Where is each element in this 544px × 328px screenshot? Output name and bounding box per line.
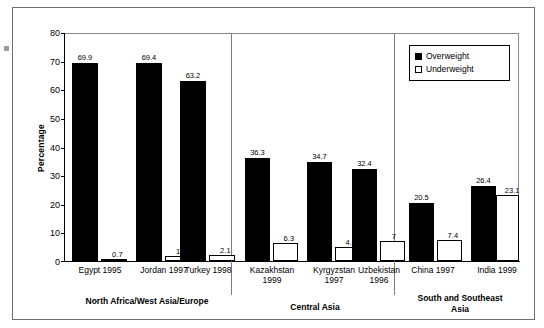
x-category-line: 1996 — [345, 275, 413, 285]
x-category-line: 1999 — [238, 275, 306, 285]
group-label-line: South and Southeast — [399, 293, 521, 304]
x-category-label-china-1997: China 1997 — [398, 265, 468, 275]
x-category-line: India 1999 — [462, 265, 532, 275]
bar-overweight-egypt-1995[interactable]: 69.9 — [72, 63, 98, 261]
bar-value-label: 20.5 — [414, 194, 429, 202]
chart-figure: Percentage 80 70 60 50 40 30 20 10 0 69.… — [0, 0, 544, 328]
chart-legend: Overweight Underweight — [409, 45, 510, 81]
bar-value-label: 2.1 — [220, 247, 230, 255]
bar-value-label: 69.4 — [142, 54, 157, 62]
bar-underweight-kazakhstan-1999[interactable]: 6.3 — [273, 243, 298, 261]
legend-item-overweight[interactable]: Overweight — [415, 50, 503, 63]
legend-label-overweight: Overweight — [426, 52, 469, 61]
bar-overweight-india-1999[interactable]: 26.4 — [471, 186, 496, 261]
x-category-line: China 1997 — [398, 265, 468, 275]
x-category-line: Turkey 1998 — [170, 265, 246, 275]
x-category-label-turkey-1998: Turkey 1998 — [170, 265, 246, 275]
group-label-north-africa-west-asia-europe: North Africa/West Asia/Europe — [62, 296, 232, 307]
group-label-south-and-southeast-asia: South and Southeast Asia — [399, 293, 521, 315]
x-category-line: Kazakhstan — [238, 265, 306, 275]
bar-underweight-uzbekistan-1996[interactable]: 7 — [380, 241, 405, 261]
bar-value-label: 32.4 — [357, 160, 372, 168]
bar-value-label: 34.7 — [312, 153, 327, 161]
bar-underweight-turkey-1998[interactable]: 2.1 — [209, 255, 235, 261]
bar-overweight-uzbekistan-1996[interactable]: 32.4 — [352, 169, 377, 261]
bar-overweight-kazakhstan-1999[interactable]: 36.3 — [245, 158, 270, 262]
x-category-label-india-1999: India 1999 — [462, 265, 532, 275]
bar-value-label: 7.4 — [448, 232, 458, 240]
group-label-line: North Africa/West Asia/Europe — [62, 296, 232, 307]
x-category-label-kazakhstan-1999: Kazakhstan 1999 — [238, 265, 306, 285]
bar-value-label: 0.7 — [112, 251, 122, 259]
bar-overweight-turkey-1998[interactable]: 63.2 — [180, 81, 206, 261]
group-label-line: Asia — [399, 304, 521, 315]
legend-swatch-overweight-icon — [415, 53, 422, 60]
bar-value-label: 26.4 — [476, 177, 491, 185]
bar-underweight-china-1997[interactable]: 7.4 — [437, 240, 462, 261]
legend-label-underweight: Underweight — [426, 65, 474, 74]
bar-value-label: 36.3 — [250, 149, 265, 157]
bar-value-label: 23.1 — [505, 187, 520, 195]
group-label-line: Central Asia — [240, 302, 390, 313]
bar-overweight-china-1997[interactable]: 20.5 — [409, 203, 434, 261]
bar-underweight-india-1999[interactable]: 23.1 — [496, 195, 519, 261]
bar-value-label: 69.9 — [78, 54, 93, 62]
bar-underweight-egypt-1995[interactable]: 0.7 — [101, 259, 127, 261]
bar-value-label: 6.3 — [284, 235, 294, 243]
legend-swatch-underweight-icon — [415, 66, 422, 73]
group-label-central-asia: Central Asia — [240, 302, 390, 313]
bar-overweight-kyrgyzstan-1997[interactable]: 34.7 — [307, 162, 332, 261]
bar-value-label: 7 — [392, 233, 396, 241]
bar-value-label: 63.2 — [186, 72, 201, 80]
legend-item-underweight[interactable]: Underweight — [415, 63, 503, 76]
bar-overweight-jordan-1997[interactable]: 69.4 — [136, 63, 162, 261]
